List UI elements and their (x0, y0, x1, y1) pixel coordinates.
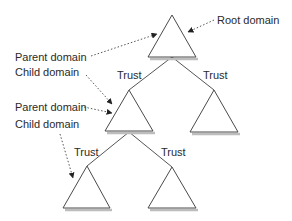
child-domain-label-2: Child domain (15, 118, 79, 130)
child-domain-triangle-right (148, 167, 196, 208)
sibling-domain-triangle (190, 90, 238, 132)
arrow-parent-domain-1 (91, 34, 157, 56)
trust-label-root-right: Trust (203, 69, 228, 81)
arrow-root-domain (188, 20, 214, 32)
arrow-parent-domain-2 (84, 107, 112, 113)
arrow-child-domain-2 (60, 134, 73, 178)
child-domain-triangle-left (63, 166, 110, 208)
parent-domain-label-1: Parent domain (15, 51, 87, 63)
child-domain-label-1: Child domain (15, 66, 79, 78)
trust-edges (87, 57, 214, 167)
parent-domain-label-2: Parent domain (15, 101, 87, 113)
root-domain-triangle (148, 15, 196, 57)
trust-label-parent-right: Trust (161, 146, 186, 158)
root-domain-label: Root domain (217, 14, 279, 26)
trust-label-parent-left: Trust (74, 146, 99, 158)
arrow-child-domain-1 (86, 75, 112, 104)
parent-domain-triangle (105, 90, 153, 131)
trust-label-root-left: Trust (117, 69, 142, 81)
